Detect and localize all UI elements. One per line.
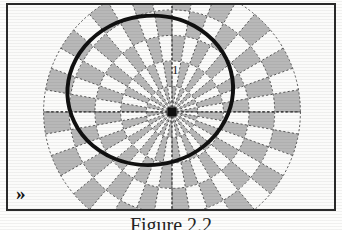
origin-dot: [168, 107, 177, 116]
origin-dot-marker: [168, 107, 177, 116]
polar-checkerboard-svg: [8, 5, 334, 209]
figure-frame: 1 »: [6, 3, 336, 211]
figure-caption: Figure 2.2: [0, 214, 342, 230]
polar-plot-area: [8, 5, 334, 209]
radial-tick-label-1: 1: [172, 63, 179, 76]
double-chevron-mark: »: [16, 184, 24, 203]
figure-page: 1 » Figure 2.2: [0, 0, 342, 230]
